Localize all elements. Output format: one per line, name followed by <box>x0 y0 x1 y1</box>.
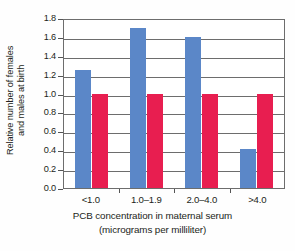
bar-group <box>229 20 284 188</box>
y-axis-tick-label: 0.4 <box>32 147 56 156</box>
x-axis-category-label: 1.0–1.9 <box>119 194 175 205</box>
bar-group <box>64 20 119 188</box>
y-axis-title-line-1: Relative number of females <box>6 45 17 154</box>
bar-females <box>185 37 201 188</box>
y-axis-tick-labels: 1.81.61.41.21.00.80.60.40.20.0 <box>32 19 56 189</box>
x-axis-tick-mark <box>119 189 120 193</box>
bar-males <box>202 94 218 188</box>
y-axis-tick-label: 0.6 <box>32 128 56 137</box>
bar-groups <box>64 20 284 188</box>
bar-females <box>240 149 256 188</box>
bar-males <box>92 94 108 188</box>
bar-group <box>119 20 174 188</box>
y-axis-tick-label: 1.2 <box>32 71 56 80</box>
y-axis-tick-label: 0.8 <box>32 109 56 118</box>
x-axis-category-labels: <1.01.0–1.92.0–4.0>4.0 <box>63 194 285 205</box>
x-axis-title: PCB concentration in maternal serum (mic… <box>20 209 285 236</box>
x-axis-title-line-2: (micrograms per milliliter) <box>20 223 285 237</box>
x-axis-category-label: >4.0 <box>230 194 286 205</box>
y-axis-title: Relative number of females and males at … <box>0 0 34 200</box>
bar-group <box>174 20 229 188</box>
x-axis-tick-mark <box>230 189 231 193</box>
x-axis-title-line-1: PCB concentration in maternal serum <box>20 209 285 223</box>
x-axis-tick-mark <box>174 189 175 193</box>
bar-males <box>257 94 273 188</box>
bar-females <box>130 28 146 188</box>
y-axis-tick-label: 1.4 <box>32 52 56 61</box>
y-axis-title-line-2: and males at birth <box>17 45 28 154</box>
bar-females <box>75 70 91 188</box>
x-axis-category-label: <1.0 <box>63 194 119 205</box>
bar-males <box>147 94 163 188</box>
chart-figure: Relative number of females and males at … <box>0 0 295 251</box>
plot-area <box>63 19 285 189</box>
y-axis-tick-label: 0.2 <box>32 166 56 175</box>
y-axis-tick-label: 1.0 <box>32 90 56 99</box>
x-axis-category-label: 2.0–4.0 <box>174 194 230 205</box>
y-axis-tick-label: 1.6 <box>32 33 56 42</box>
y-axis-tick-label: 1.8 <box>32 14 56 23</box>
y-axis-tick-label: 0.0 <box>32 184 56 193</box>
